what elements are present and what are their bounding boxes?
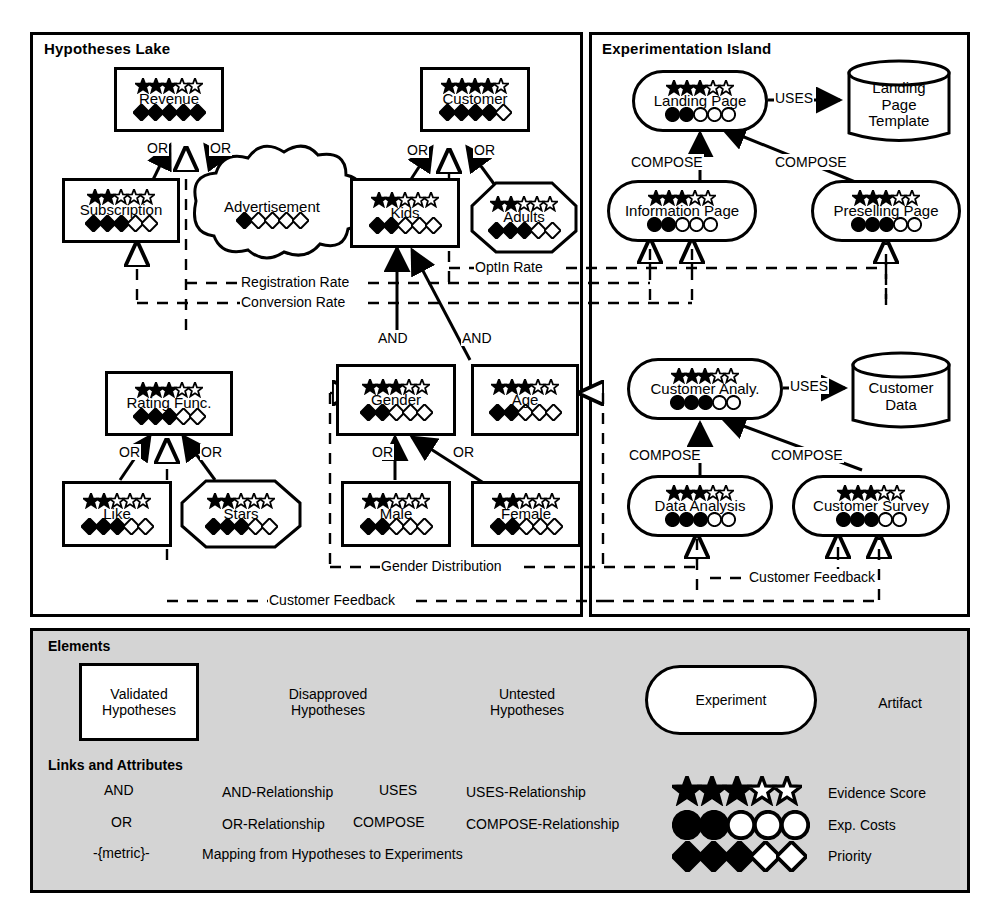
legend-element-validated-label: Validated Hypotheses — [102, 686, 176, 718]
legend-link-mapping-edge-label: -{metric}- — [92, 845, 151, 861]
node-adults-label: Adults — [503, 209, 545, 225]
metric-registration-rate: Registration Rate — [240, 274, 350, 290]
node-information-page-label: Information Page — [625, 203, 739, 219]
legend-link-and-text: AND-Relationship — [222, 784, 333, 800]
node-age-label: Age — [512, 392, 539, 408]
node-stars-label: Stars — [223, 506, 258, 522]
metric-gender-distribution: Gender Distribution — [380, 558, 503, 574]
legend-link-uses-edge-label: USES — [378, 782, 418, 798]
node-customer-data-label: Customer Data — [868, 379, 933, 414]
legend-element-untested: Untested Hypotheses — [442, 662, 612, 742]
node-information-page-costs — [647, 217, 718, 232]
node-female-label: Female — [501, 506, 551, 522]
node-landing-page-template-label: Landing Page Template — [869, 80, 930, 130]
node-preselling-page-costs — [851, 217, 922, 232]
edge-label-or-revenue-right: OR — [209, 140, 232, 156]
node-preselling-page-label: Preselling Page — [833, 203, 938, 219]
node-gender-label: Gender — [371, 392, 421, 408]
node-customer-analysis-label: Customer Analy. — [651, 381, 760, 397]
legend-attr-evidence-glyphs — [672, 776, 802, 806]
node-male-label: Male — [380, 506, 413, 522]
panel-experimentation-island-title: Experimentation Island — [602, 40, 771, 57]
node-customer-survey-label: Customer Survey — [813, 498, 929, 514]
legend-element-experiment-label: Experiment — [696, 692, 767, 708]
metric-customer-feedback-right: Customer Feedback — [748, 569, 876, 585]
edge-label-or-customer-left: OR — [406, 142, 429, 158]
node-stars[interactable]: Stars — [182, 481, 300, 547]
legend-element-experiment: Experiment — [645, 665, 817, 735]
edge-label-or-customer-right: OR — [473, 142, 496, 158]
node-female[interactable]: Female — [471, 481, 581, 547]
metric-optin-rate: OptIn Rate — [474, 259, 544, 275]
node-landing-page-label: Landing Page — [654, 93, 747, 109]
node-adults[interactable]: Adults — [472, 183, 576, 252]
legend-attr-priority-glyphs — [672, 841, 807, 872]
edge-label-compose-landing-left: COMPOSE — [630, 154, 704, 170]
metric-conversion-rate: Conversion Rate — [240, 294, 346, 310]
legend-elements-title: Elements — [48, 638, 110, 654]
node-customer[interactable]: Customer — [420, 67, 530, 132]
node-preselling-page[interactable]: Preselling Page — [811, 180, 961, 242]
node-advertisement[interactable]: Advertisement — [196, 173, 348, 255]
node-subscription-label: Subscription — [80, 202, 163, 218]
legend-link-uses-text: USES-Relationship — [466, 784, 586, 800]
node-customer-analysis-costs — [670, 395, 741, 410]
node-rating-func-label: Rating Func. — [126, 395, 211, 411]
node-rating-func[interactable]: Rating Func. — [105, 371, 233, 436]
node-revenue-label: Revenue — [139, 91, 199, 107]
node-like-label: Like — [103, 506, 131, 522]
node-landing-page[interactable]: Landing Page — [632, 70, 768, 132]
legend-attr-evidence-label: Evidence Score — [828, 785, 926, 801]
node-data-analysis-label: Data Analysis — [655, 498, 746, 514]
edge-label-uses-landing: USES — [774, 90, 814, 106]
edge-label-compose-landing-right: COMPOSE — [774, 154, 848, 170]
legend-element-artifact: Artifact — [853, 668, 947, 738]
edge-label-or-rating-left: OR — [118, 444, 141, 460]
node-customer-data[interactable]: Customer Data — [853, 360, 949, 432]
legend-link-compose-edge-label: COMPOSE — [352, 814, 426, 830]
edge-label-uses-customer: USES — [789, 378, 829, 394]
legend-attr-costs-label: Exp. Costs — [828, 817, 896, 833]
node-landing-page-costs — [665, 107, 736, 122]
node-male[interactable]: Male — [341, 481, 451, 547]
node-customer-survey-costs — [836, 512, 907, 527]
node-gender[interactable]: Gender — [336, 364, 456, 436]
node-age[interactable]: Age — [471, 364, 579, 436]
edge-label-and-kids: AND — [377, 330, 409, 346]
legend-element-untested-label: Untested Hypotheses — [490, 686, 564, 718]
edge-label-or-revenue-left: OR — [146, 140, 169, 156]
diagram-canvas: Hypotheses Lake Experimentation Island — [0, 0, 1000, 921]
legend-link-or-edge-label: OR — [110, 814, 133, 830]
legend-element-disapproved-label: Disapproved Hypotheses — [289, 686, 368, 718]
legend-element-artifact-label: Artifact — [878, 695, 922, 711]
legend-attr-priority-label: Priority — [828, 848, 872, 864]
edge-label-or-gender-left: OR — [371, 444, 394, 460]
legend-link-mapping-text: Mapping from Hypotheses to Experiments — [202, 846, 463, 862]
legend-link-or-text: OR-Relationship — [222, 816, 325, 832]
node-revenue[interactable]: Revenue — [114, 67, 224, 132]
edge-label-or-gender-right: OR — [452, 444, 475, 460]
edge-label-or-rating-right: OR — [200, 444, 223, 460]
node-advertisement-label: Advertisement — [224, 199, 320, 215]
node-landing-page-template[interactable]: Landing Page Template — [849, 66, 949, 144]
node-customer-label: Customer — [442, 91, 507, 107]
edge-label-compose-analysis-right: COMPOSE — [770, 447, 844, 463]
node-customer-survey[interactable]: Customer Survey — [792, 475, 950, 537]
edge-label-compose-analysis-left: COMPOSE — [628, 447, 702, 463]
node-kids[interactable]: Kids — [350, 178, 460, 248]
node-subscription[interactable]: Subscription — [62, 178, 180, 243]
node-information-page[interactable]: Information Page — [607, 180, 757, 242]
metric-customer-feedback-left: Customer Feedback — [268, 592, 396, 608]
legend-link-and-edge-label: AND — [103, 782, 135, 798]
node-data-analysis[interactable]: Data Analysis — [627, 475, 773, 537]
node-data-analysis-costs — [665, 512, 736, 527]
node-kids-label: Kids — [390, 205, 419, 221]
legend-element-disapproved: Disapproved Hypotheses — [256, 660, 400, 744]
node-customer-analysis[interactable]: Customer Analy. — [627, 358, 783, 420]
edge-label-and-age: AND — [461, 330, 493, 346]
legend-attr-costs-glyphs — [672, 810, 810, 840]
node-like[interactable]: Like — [62, 481, 172, 547]
legend-element-validated: Validated Hypotheses — [79, 663, 199, 741]
panel-hypotheses-lake-title: Hypotheses Lake — [44, 40, 170, 57]
legend-link-compose-text: COMPOSE-Relationship — [466, 816, 619, 832]
